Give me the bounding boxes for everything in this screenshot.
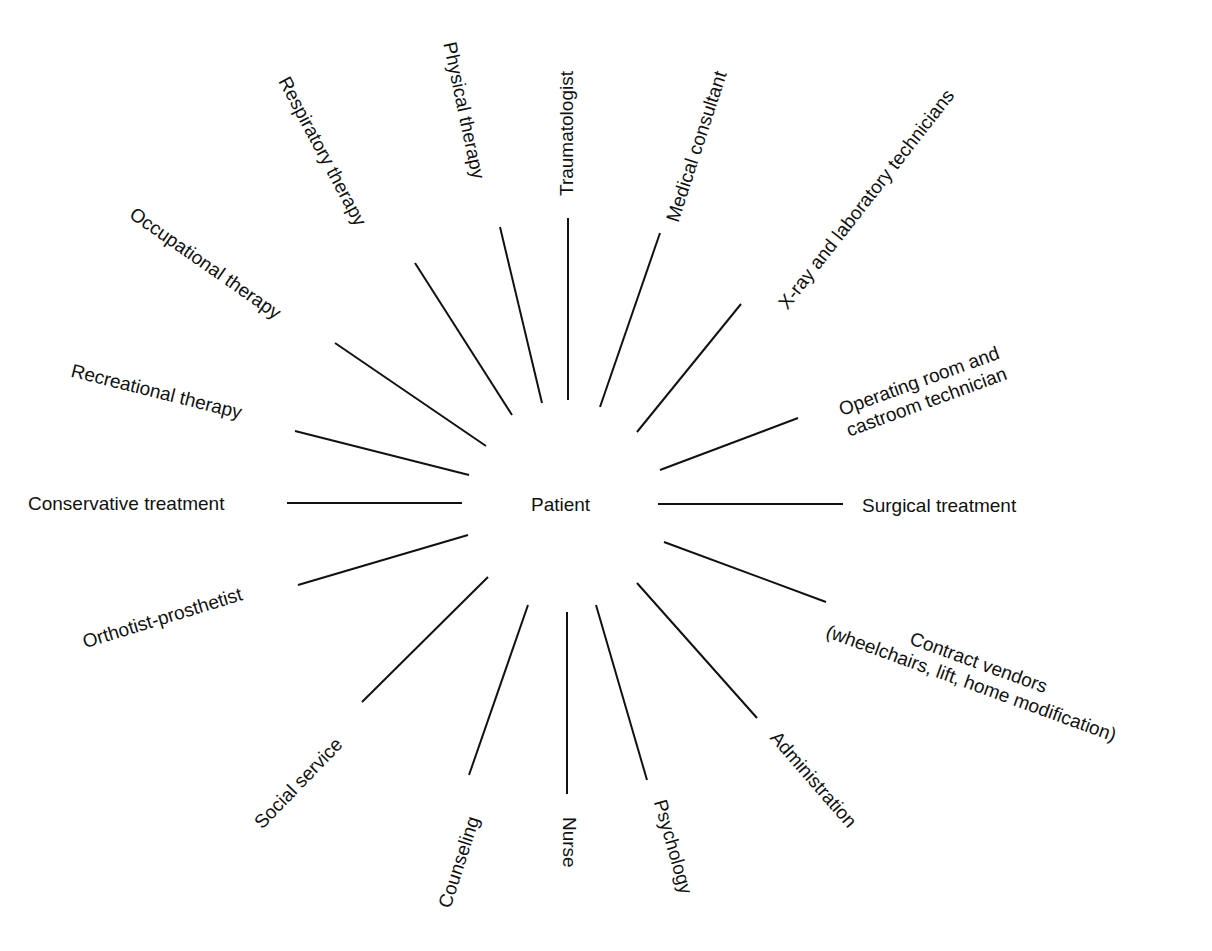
label-traumatologist: Traumatologist (556, 71, 578, 196)
connector-lines (0, 0, 1212, 951)
label-conservative: Conservative treatment (28, 493, 224, 515)
line-physical (500, 227, 542, 403)
line-psychology (596, 605, 647, 780)
line-xray-lab (637, 304, 741, 432)
line-respiratory (415, 263, 512, 415)
patient-center-label: Patient (531, 494, 590, 516)
line-medical-consultant (600, 233, 660, 407)
line-social-service (362, 577, 488, 702)
line-contract-vendors (664, 542, 826, 602)
label-nurse: Nurse (558, 817, 580, 868)
line-recreational (295, 431, 469, 475)
label-surgical: Surgical treatment (862, 495, 1016, 517)
line-orthotist (298, 535, 468, 585)
line-operating-room (660, 418, 798, 470)
line-administration (637, 583, 757, 718)
line-occupational (335, 343, 486, 446)
line-counseling (469, 605, 528, 775)
